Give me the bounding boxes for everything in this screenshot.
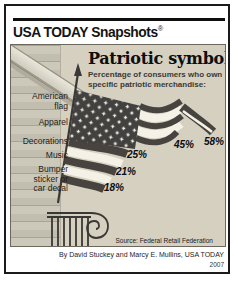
- chart-subtitle-line-1: Percentage of consumers who own: [88, 70, 222, 80]
- chart-panel: Patriotic symbols Percentage of consumer…: [10, 44, 226, 247]
- masthead-title: USA TODAY Snapshots®: [13, 23, 163, 40]
- registered-trademark: ®: [158, 24, 163, 33]
- category-line: Music: [13, 151, 68, 161]
- brand-name: USA TODAY Snapshots: [13, 23, 158, 40]
- category-label-american-flag: American flag: [13, 92, 68, 111]
- category-line: flag: [13, 102, 68, 112]
- category-label-bumper-sticker: Bumper sticker or car decal: [13, 165, 68, 194]
- flag-stripes-right: [136, 101, 182, 142]
- value-label-45: 45%: [174, 139, 194, 150]
- category-label-decorations: Decorations: [13, 137, 68, 147]
- chart-subtitle: Percentage of consumers who own specific…: [88, 70, 222, 89]
- category-line: Decorations: [13, 137, 68, 147]
- masthead-rule: [13, 18, 225, 21]
- category-line: car decal: [13, 184, 68, 194]
- flagpole-finial-icon: [74, 63, 82, 76]
- value-label-18: 18%: [104, 182, 124, 193]
- source-note: Source: Federal Retail Federation: [115, 237, 213, 244]
- category-label-music: Music: [13, 151, 68, 161]
- year-label: 2007: [210, 261, 224, 268]
- category-line: Apparel: [13, 118, 68, 128]
- value-label-21: 21%: [116, 166, 136, 177]
- chart-title: Patriotic symbols: [88, 49, 226, 68]
- category-label-apparel: Apparel: [13, 118, 68, 128]
- byline: By David Stuckey and Marcy E. Mullins, U…: [59, 251, 224, 258]
- railing-volute-icon: [87, 213, 108, 238]
- chart-subtitle-line-2: specific patriotic merchandise:: [88, 80, 222, 90]
- usa-today-snapshot-card: USA TODAY Snapshots®: [0, 0, 238, 282]
- value-label-25: 25%: [127, 149, 147, 160]
- value-label-58: 58%: [204, 136, 224, 147]
- flag-tail-stripe: [182, 107, 213, 132]
